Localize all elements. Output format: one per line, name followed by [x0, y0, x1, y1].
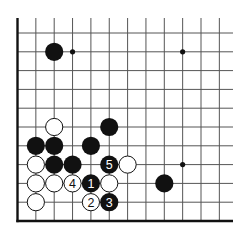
white-stone: 4	[64, 175, 81, 192]
black-stone	[100, 118, 118, 136]
white-stone-icon	[46, 175, 63, 192]
black-stone-icon	[82, 137, 100, 155]
go-board: 54123	[0, 0, 249, 233]
star-point-icon	[180, 162, 185, 167]
black-stone-icon	[45, 156, 63, 174]
move-number-label: 2	[87, 196, 94, 210]
black-stone	[63, 156, 81, 174]
white-stone	[27, 156, 44, 173]
white-stone-icon	[27, 156, 44, 173]
black-stone	[27, 137, 45, 155]
white-stone: 2	[82, 194, 99, 211]
black-stone: 1	[82, 174, 100, 192]
white-stone-icon	[119, 156, 136, 173]
black-stone-icon	[155, 174, 173, 192]
black-stone-icon	[100, 118, 118, 136]
black-stone-icon	[45, 137, 63, 155]
black-stone	[155, 174, 173, 192]
black-stone: 3	[100, 193, 118, 211]
white-stone-icon	[27, 194, 44, 211]
black-stone	[45, 156, 63, 174]
white-stone-icon	[27, 175, 44, 192]
move-number-label: 4	[69, 177, 76, 191]
move-number-label: 3	[106, 196, 113, 210]
black-stone	[45, 43, 63, 61]
black-stone	[82, 137, 100, 155]
white-stone	[119, 156, 136, 173]
white-stone	[46, 175, 63, 192]
black-stone-icon	[45, 43, 63, 61]
star-point-icon	[180, 49, 185, 54]
black-stone: 5	[100, 156, 118, 174]
white-stone	[27, 175, 44, 192]
star-point-icon	[70, 49, 75, 54]
white-stone-icon	[101, 175, 118, 192]
move-number-label: 5	[106, 158, 113, 172]
black-stone-icon	[27, 137, 45, 155]
move-number-label: 1	[87, 177, 94, 191]
white-stone-icon	[46, 118, 63, 135]
white-stone	[46, 118, 63, 135]
white-stone	[27, 194, 44, 211]
white-stone	[101, 175, 118, 192]
black-stone	[45, 137, 63, 155]
black-stone-icon	[63, 156, 81, 174]
